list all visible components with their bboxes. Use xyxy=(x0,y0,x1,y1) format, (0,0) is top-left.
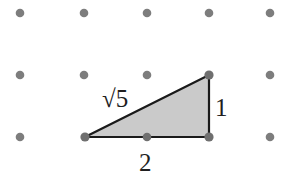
vertex-dot-bottom-left xyxy=(80,132,89,141)
lattice-dot xyxy=(16,133,25,142)
lattice-dot xyxy=(266,133,275,142)
lattice-dot xyxy=(80,71,89,80)
hypotenuse-label: √5 xyxy=(102,86,128,111)
lattice-dot xyxy=(16,71,25,80)
lattice-dot xyxy=(266,9,275,18)
lattice-dot xyxy=(16,9,25,18)
lattice-dot xyxy=(143,71,152,80)
midpoint-dot-base xyxy=(143,133,152,142)
lattice-dot xyxy=(266,71,275,80)
lattice-dot xyxy=(143,9,152,18)
vertical-leg-label: 1 xyxy=(215,95,228,120)
lattice-triangle-figure: √5 1 2 xyxy=(0,0,293,190)
lattice-dot xyxy=(205,9,214,18)
vertex-dot-bottom-right xyxy=(204,132,213,141)
base-label: 2 xyxy=(139,150,152,175)
lattice-dot xyxy=(80,9,89,18)
vertex-dot-top-right xyxy=(204,70,213,79)
